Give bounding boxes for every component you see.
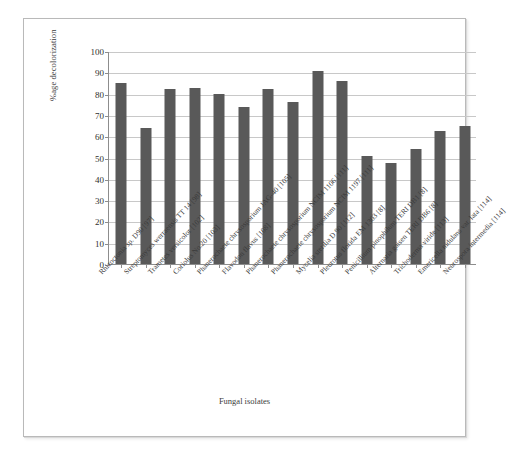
y-axis-tick-label: 70 — [95, 111, 104, 121]
x-axis-tick-mark — [465, 264, 466, 268]
x-axis-tick-mark — [318, 264, 319, 268]
x-axis-tick-mark — [121, 264, 122, 268]
x-axis-tick-mark — [416, 264, 417, 268]
x-axis-tick-mark — [342, 264, 343, 268]
y-axis-title: %age decolorization — [48, 0, 58, 101]
x-axis-tick-mark — [391, 264, 392, 268]
bar — [116, 83, 127, 264]
y-axis-tick-label: 90 — [95, 68, 104, 78]
x-axis-tick-mark — [268, 264, 269, 268]
bar-slot — [109, 52, 134, 264]
y-axis-tick-label: 50 — [95, 154, 104, 164]
x-axis-tick-mark — [367, 264, 368, 268]
x-axis-tick-mark — [440, 264, 441, 268]
y-axis-tick-label: 80 — [95, 90, 104, 100]
y-axis-tick-label: 100 — [91, 47, 105, 57]
y-axis-tick-label: 30 — [95, 196, 104, 206]
x-axis-tick-mark — [219, 264, 220, 268]
bar — [189, 88, 200, 264]
x-axis-tick-mark — [170, 264, 171, 268]
y-axis-tick-label: 40 — [95, 175, 104, 185]
x-axis-title: Fungal isolates — [24, 396, 465, 406]
y-axis-tick-label: 10 — [95, 239, 104, 249]
y-axis-tick-label: 60 — [95, 132, 104, 142]
y-axis-tick-label: 20 — [95, 217, 104, 227]
x-axis-tick-mark — [293, 264, 294, 268]
figure-frame: %age decolorization 10090807060504030201… — [23, 18, 466, 437]
